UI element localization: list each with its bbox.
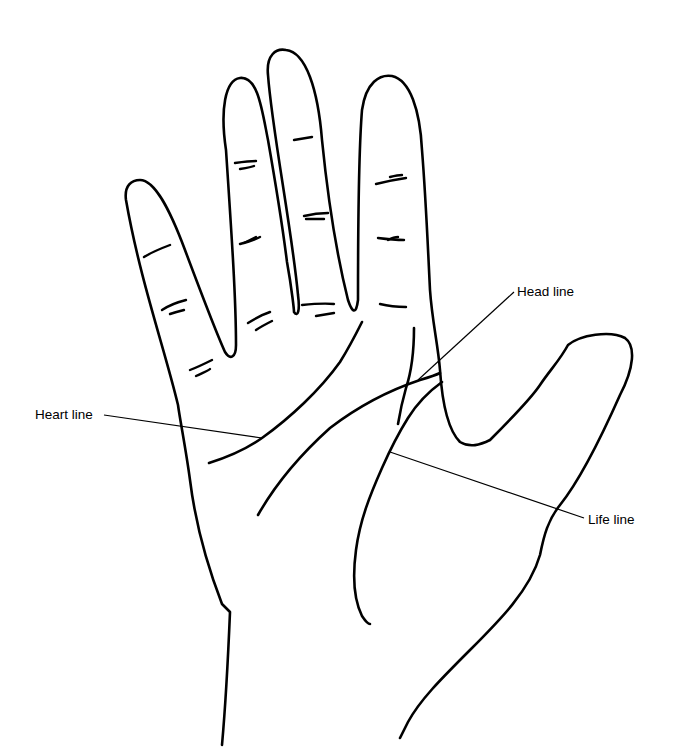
head-line [258, 373, 440, 515]
life-line-leader [390, 452, 584, 518]
little-finger-crease [190, 360, 212, 370]
ring-finger-crease [248, 312, 270, 323]
head-line-label: Head line [517, 285, 574, 299]
index-finger-crease [376, 178, 406, 184]
ring-finger-crease [235, 161, 256, 163]
middle-finger-crease [304, 213, 328, 216]
little-finger-crease [196, 369, 210, 376]
ring-finger-crease [240, 166, 254, 169]
middle-finger-crease [302, 304, 334, 305]
little-finger-crease [170, 310, 184, 314]
index-finger-crease [390, 175, 402, 177]
hand-drawing [0, 0, 680, 754]
palm-diagram: Head line Heart line Life line [0, 0, 680, 754]
life-line-label: Life line [588, 513, 635, 527]
little-finger-crease [144, 245, 170, 257]
index-finger-crease [380, 304, 406, 307]
middle-finger-crease [294, 137, 312, 140]
minor-palm-line [398, 328, 414, 424]
middle-finger-crease [316, 313, 334, 316]
ring-finger-crease [256, 321, 272, 330]
heart-line [209, 322, 362, 463]
heart-line-label: Heart line [35, 408, 93, 422]
little-finger-crease [162, 300, 186, 310]
